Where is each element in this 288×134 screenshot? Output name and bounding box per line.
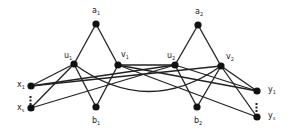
edge-a1-u1 bbox=[74, 24, 96, 64]
edge-v2-b2 bbox=[197, 66, 221, 107]
node-v1 bbox=[114, 61, 121, 68]
vertical-ellipsis-icon bbox=[30, 100, 32, 102]
vertical-ellipsis-icon bbox=[30, 103, 32, 105]
label-a2: a2 bbox=[195, 7, 203, 17]
node-a1 bbox=[92, 20, 99, 27]
node-a2 bbox=[194, 21, 201, 28]
vertical-ellipsis-icon bbox=[30, 96, 32, 98]
label-x2: xs bbox=[17, 103, 25, 113]
label-y1: y1 bbox=[268, 85, 276, 95]
edge-x1-v2 bbox=[31, 66, 221, 86]
node-b2 bbox=[193, 103, 200, 110]
label-v1: v1 bbox=[121, 50, 129, 60]
edge-v2-y2 bbox=[221, 66, 257, 117]
node-x1 bbox=[27, 82, 34, 89]
node-u1 bbox=[70, 60, 77, 67]
edge-a2-u2 bbox=[175, 25, 198, 65]
vertical-ellipsis-icon bbox=[256, 103, 258, 105]
graph-diagram: a1u1v1b1a2u2v2b2x1xsy1ys bbox=[0, 0, 288, 134]
node-b1 bbox=[92, 103, 99, 110]
label-y2: ys bbox=[268, 111, 276, 121]
node-y2 bbox=[253, 113, 260, 120]
graph-edges bbox=[31, 24, 257, 117]
label-v2: v2 bbox=[226, 52, 234, 62]
node-y1 bbox=[253, 87, 260, 94]
edge-a2-v2 bbox=[198, 25, 221, 66]
label-b2: b2 bbox=[194, 116, 202, 126]
label-u2: u2 bbox=[167, 51, 175, 61]
edge-a1-v1 bbox=[96, 24, 118, 65]
label-u1: u1 bbox=[64, 51, 72, 61]
label-a1: a1 bbox=[92, 6, 100, 16]
edge-u1-b1 bbox=[74, 64, 96, 107]
vertical-ellipsis-icon bbox=[256, 107, 258, 109]
node-v2 bbox=[217, 62, 224, 69]
label-x1: x1 bbox=[17, 80, 25, 90]
vertical-ellipsis-icon bbox=[256, 110, 258, 112]
graph-labels: a1u1v1b1a2u2v2b2x1xsy1ys bbox=[17, 6, 276, 126]
node-u2 bbox=[171, 61, 178, 68]
node-x2 bbox=[27, 104, 34, 111]
label-b1: b1 bbox=[92, 116, 100, 126]
